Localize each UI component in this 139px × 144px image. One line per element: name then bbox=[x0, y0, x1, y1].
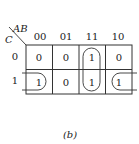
col-header-11: 11 bbox=[80, 32, 104, 42]
col-header-00: 00 bbox=[28, 32, 52, 42]
cell-c1-ab11: 1 bbox=[79, 70, 105, 94]
cell-c0-ab10: 0 bbox=[106, 45, 132, 69]
cell-c0-ab01: 0 bbox=[53, 45, 79, 69]
col-header-10: 10 bbox=[106, 32, 130, 42]
col-var-label: AB bbox=[13, 24, 28, 34]
row-var-label: C bbox=[5, 35, 13, 45]
cell-c0-ab00: 0 bbox=[26, 45, 52, 69]
row-header-1: 1 bbox=[10, 76, 20, 86]
cell-c1-ab10: 1 bbox=[106, 70, 132, 94]
cell-c0-ab11: 1 bbox=[79, 45, 105, 69]
row-header-0: 0 bbox=[10, 52, 20, 62]
col-header-01: 01 bbox=[54, 32, 78, 42]
cell-c1-ab01: 0 bbox=[53, 70, 79, 94]
figure-caption: (b) bbox=[55, 130, 85, 140]
cell-c1-ab00: 1 bbox=[26, 70, 52, 94]
